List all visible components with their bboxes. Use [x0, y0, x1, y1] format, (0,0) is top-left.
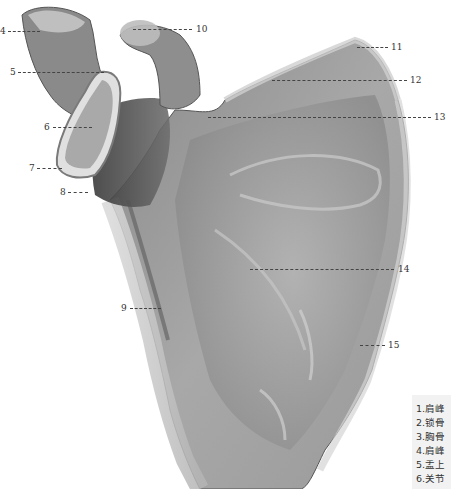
- legend-item: 1.肩峰: [416, 403, 445, 415]
- leader-line: [250, 269, 394, 270]
- legend: 1.肩峰 2.锁骨 3.胸骨 4.肩峰 5.盂上 6.关节: [412, 395, 451, 489]
- leader-line: [272, 80, 407, 81]
- callout-number: 8: [60, 187, 66, 197]
- legend-item: 6.关节: [416, 473, 445, 485]
- scapula-illustration: [0, 0, 451, 489]
- callout-number: 7: [29, 163, 35, 173]
- leader-line: [133, 29, 192, 30]
- legend-item: 2.锁骨: [416, 417, 445, 429]
- callout-number: 12: [410, 75, 421, 85]
- callout-number: 5: [10, 67, 16, 77]
- callout-number: 11: [391, 42, 402, 52]
- callout-number: 9: [121, 303, 127, 313]
- leader-line: [208, 117, 431, 118]
- leader-line: [360, 345, 385, 346]
- leader-line: [18, 72, 104, 73]
- callout-number: 10: [196, 24, 207, 34]
- scapula-figure: 4 10 5 11 12 6 13 7 8 14 9 15: [0, 0, 451, 489]
- legend-item: 5.盂上: [416, 459, 445, 471]
- leader-line: [130, 308, 161, 309]
- callout-number: 4: [0, 26, 6, 36]
- leader-line: [53, 127, 92, 128]
- callout-number: 6: [44, 122, 50, 132]
- callout-number: 14: [398, 264, 409, 274]
- leader-line: [357, 47, 388, 48]
- leader-line: [68, 192, 88, 193]
- callout-number: 13: [434, 112, 445, 122]
- legend-item: 4.肩峰: [416, 445, 445, 457]
- legend-item: 3.胸骨: [416, 431, 445, 443]
- leader-line: [8, 31, 40, 32]
- leader-line: [37, 168, 62, 169]
- callout-number: 15: [388, 340, 399, 350]
